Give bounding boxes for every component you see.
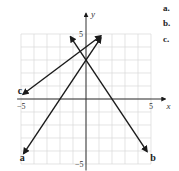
line-b [70,37,147,152]
y-tick-label-max: 5 [79,30,83,39]
choice-c-label: c. [163,34,169,44]
x-tick-label-min: −5 [17,102,26,111]
coordinate-plane: −555−5xyabc [0,0,179,171]
line-label-b: b [150,152,156,163]
line-label-c: c [18,85,23,96]
y-axis-label: y [90,9,95,19]
choice-a-label: a. [163,3,170,13]
choice-b-label: b. [163,18,170,28]
line-a [24,38,101,154]
line-label-a: a [20,152,25,163]
y-tick-label-min: −5 [75,160,84,169]
x-axis-label: x [166,101,171,111]
x-tick-label-max: 5 [149,102,153,111]
